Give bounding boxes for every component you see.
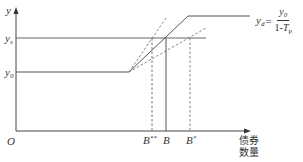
equals-sign: = — [265, 15, 271, 27]
steep-dashed-line — [129, 18, 166, 72]
yd-curve — [16, 16, 250, 72]
yd-formula: yd = y0 1-Tp — [256, 6, 292, 35]
fraction-denominator: 1-Tp — [275, 21, 292, 35]
x-axis-label-line2: 数量 — [234, 147, 264, 159]
y-axis-label: y — [6, 5, 11, 16]
x-axis-label: 债券 数量 — [234, 135, 264, 159]
y-axis-arrow-icon — [14, 7, 19, 14]
x-axis-label-line1: 债券 — [234, 135, 264, 147]
b-label: B — [163, 135, 170, 146]
x-axis-arrow-icon — [244, 129, 251, 134]
shallow-dashed-line — [129, 28, 206, 72]
origin-label: O — [7, 136, 15, 147]
b-star-label: B* — [186, 135, 196, 146]
ys-label: ys — [5, 33, 13, 46]
b-double-star-label: B** — [143, 135, 157, 146]
fraction: y0 1-Tp — [275, 6, 292, 35]
fraction-numerator: y0 — [277, 6, 289, 21]
yd-lhs: yd — [256, 14, 264, 28]
y0-label: y0 — [5, 67, 13, 80]
